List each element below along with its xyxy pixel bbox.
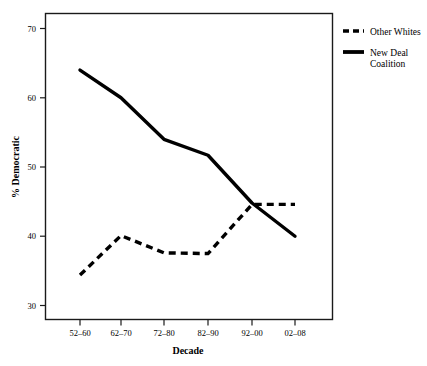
legend-label-new-deal-coalition-line2: Coalition [370, 59, 406, 69]
legend-label-new-deal-coalition-line1: New Deal [370, 48, 409, 58]
x-tick-label-1: 62–70 [110, 328, 131, 338]
legend-label-other-whites: Other Whites [370, 27, 421, 37]
y-tick-label-50: 50 [28, 162, 37, 172]
y-tick-label-30: 30 [28, 301, 37, 311]
x-tick-label-0: 52–60 [69, 328, 90, 338]
chart-background [0, 0, 427, 366]
chart-figure: 70 60 50 40 30 % Democratic 52–60 62–70 … [0, 0, 427, 366]
y-tick-label-40: 40 [28, 231, 37, 241]
x-tick-label-2: 72–80 [153, 328, 174, 338]
y-tick-label-70: 70 [28, 24, 37, 34]
x-tick-label-5: 02–08 [284, 328, 305, 338]
x-tick-label-4: 92–00 [241, 328, 262, 338]
x-tick-label-3: 82–90 [197, 328, 218, 338]
y-axis-title: % Democratic [10, 135, 21, 197]
y-tick-label-60: 60 [28, 93, 37, 103]
line-chart-canvas: 70 60 50 40 30 % Democratic 52–60 62–70 … [0, 0, 427, 366]
x-axis-title: Decade [172, 345, 204, 356]
